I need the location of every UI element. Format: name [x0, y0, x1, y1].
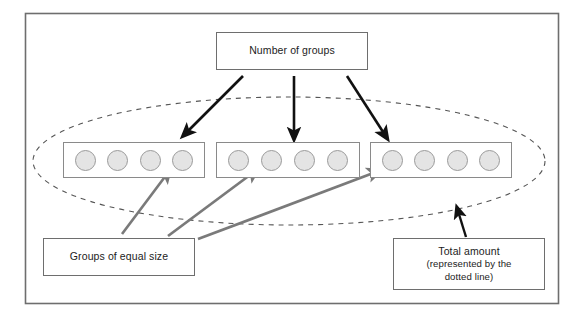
counter-dot: [447, 150, 468, 171]
arrow-equal-size-to-group-1: [122, 174, 167, 234]
label-box-number-of-groups: Number of groups: [216, 32, 368, 70]
counter-dot: [107, 150, 128, 171]
label-total-amount-line1: Total amount: [438, 245, 499, 259]
counter-dot: [172, 150, 193, 171]
arrow-equal-size-to-group-2: [168, 172, 254, 236]
label-total-amount-line3: dotted line): [445, 271, 494, 283]
counter-dot: [228, 150, 249, 171]
arrow-equal-size-to-group-3: [198, 172, 376, 239]
counter-dot: [261, 150, 282, 171]
counter-dot: [479, 150, 500, 171]
label-box-total-amount: Total amount (represented by the dotted …: [393, 238, 545, 290]
counter-dot: [327, 150, 348, 171]
counter-dot: [140, 150, 161, 171]
counter-dot: [382, 150, 403, 171]
label-groups-of-equal-size-text: Groups of equal size: [70, 250, 168, 263]
label-box-groups-of-equal-size: Groups of equal size: [43, 238, 195, 276]
label-total-amount-line2: (represented by the: [426, 258, 511, 270]
counter-dot: [75, 150, 96, 171]
counter-dot: [414, 150, 435, 171]
diagram-canvas: Number of groups Groups of equal size To…: [0, 0, 586, 321]
arrow-total-to-ellipse: [458, 211, 466, 237]
group-box-3: [370, 142, 512, 178]
group-box-2: [216, 142, 360, 178]
group-box-1: [63, 142, 205, 178]
counter-dot: [294, 150, 315, 171]
arrow-groups-to-group-3: [347, 76, 385, 135]
label-number-of-groups-text: Number of groups: [249, 44, 335, 57]
arrow-groups-to-group-1: [186, 76, 243, 133]
